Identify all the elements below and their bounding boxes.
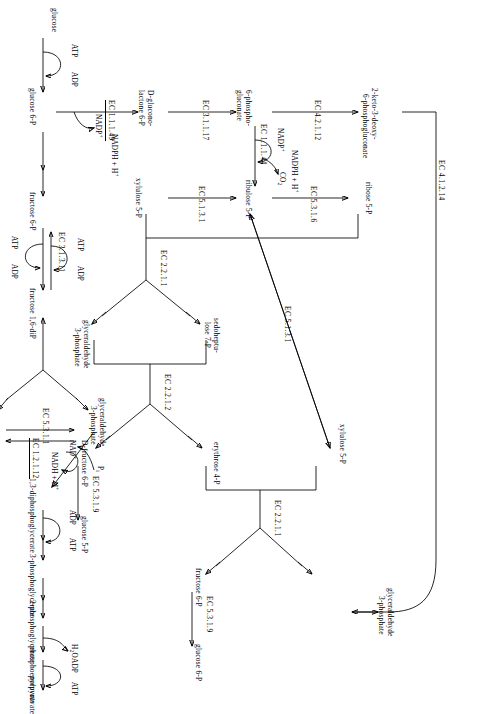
cofactor-atp-pfk: ATP (10, 236, 18, 249)
metabolite-gap-right-line2: 3-phosphate (377, 596, 385, 635)
cofactor-atp-hexokinase: ATP (70, 44, 78, 57)
metabolite-d-fructose-6p: D-fructose 6-P (80, 440, 88, 487)
ec-triosephosphate-isomerase: EC 5.3.1.1 (41, 408, 50, 445)
ec-transketolase-1: EC 2.2.1.1 (159, 250, 168, 287)
metabolite-fructose-16dip: fructose 1,6-diP (28, 288, 36, 339)
metabolite-bpg: 1,3-diphosphoglycerate (28, 478, 36, 553)
cofactor-adp-fbpase: ADP (76, 266, 84, 281)
metabolite-xylulose-5p-right: xylulose 5-P (338, 424, 346, 464)
ec-ribulose-5p-epimerase: EC 5.1.3.1 (197, 186, 206, 223)
metabolite-fructose-6p: fructose 6-P (28, 192, 36, 231)
metabolite-sedoheptulose-line2: lose 7-P (203, 322, 211, 348)
ec-6pg-dehydrogenase: EC 1.1.1.44 (259, 124, 268, 165)
cofactor-adp-hexokinase: ADP (70, 72, 78, 87)
metabolite-gap-right-line1: glyceraldehyde (386, 588, 394, 637)
ec-g6p-dehydrogenase: EC 1.1.1.49 (105, 100, 116, 141)
metabolite-gap-ppp-line2: 3-phosphate (73, 328, 81, 367)
cofactor-nadph-6pgdh: NADPH + H+ (290, 150, 300, 193)
metabolite-6-phosphogluconate-line2: gluconate (235, 90, 243, 121)
metabolite-ribulose-5p: ribulose 5-P (244, 180, 252, 219)
ec-fructose-bisphosphatase: EC 3.1.3.11 (57, 232, 66, 273)
ec-gluconolactonase: EC 3.1.1.17 (201, 100, 210, 141)
ec-transaldolase: EC 2.2.1.2 (163, 374, 172, 411)
ec-transketolase-2: EC 2.2.1.1 (273, 500, 282, 537)
ec-isomerase-a: EC 5.3.1.9 (91, 476, 100, 513)
metabolite-fructose-6p-right: fructose 6-P (194, 568, 202, 607)
cofactor-adp-pgk: ADP (68, 510, 76, 525)
cofactor-co2: CO2 (277, 172, 286, 185)
metabolite-erythrose-4p: erythrose 4-P (212, 442, 220, 485)
metabolite-glucose: glucose (50, 8, 58, 32)
cofactor-nadp-g6pdh: NADP+ (94, 114, 104, 138)
cofactor-nadp-6pgdh: NADP+ (276, 128, 286, 152)
cofactor-pi: Pi (95, 466, 104, 472)
metabolite-xylulose-5p-left: xylulose 5-P (134, 178, 142, 218)
cofactor-atp-pk: ATP (70, 682, 78, 695)
metabolite-sedoheptulose-line1: sedoheptu- (212, 318, 220, 353)
metabolite-glucose-6p: glucose 6-P (28, 88, 36, 125)
cofactor-nad-gapdh: NAD+ (68, 440, 78, 459)
metabolite-pyruvate: pyruvate (28, 676, 36, 704)
cofactor-h2o-enolase: H2O (69, 644, 78, 658)
metabolite-glucose-5p: glucose 5-P (80, 516, 88, 553)
ec-gapdh: EC 1.2.1.12 (29, 438, 40, 479)
metabolite-glucose-6p-right: glucose 6-P (194, 644, 202, 681)
cofactor-atp-fbpase: ATP (76, 238, 84, 251)
metabolite-6-phosphogluconate-line1: 6-phospho- (244, 90, 252, 126)
ec-ribose-5p-isomerase: EC 5.3.1.6 (309, 186, 318, 223)
ec-kdpg-aldolase: EC 4.1.2.14 (437, 160, 446, 201)
ec-epimerase-diagonal: EC 5.1.3.1 (283, 306, 292, 343)
cofactor-atp-pgk: ATP (68, 538, 76, 551)
metabolite-gap-line1: glyceraldehyde (98, 398, 106, 447)
cofactor-nadh-gapdh: NADH + H+ (50, 452, 60, 490)
metabolite-gluconolactone-line1: D-glucono- (146, 90, 154, 127)
ec-isomerase-b: EC 5.3.1.9 (205, 596, 214, 633)
metabolite-gluconolactone-line2: lactone 6-P (137, 90, 145, 126)
metabolite-kdpg-line1: 2-keto-3-deoxy- (370, 88, 378, 140)
cofactor-adp-pk: ADP (70, 658, 78, 673)
ec-phosphogluconate-dehydratase: EC 4.2.1.12 (313, 100, 322, 141)
metabolite-gap-ppp-line1: glyceraldehyde (82, 320, 90, 369)
cofactor-adp-pfk: ADP (10, 264, 18, 279)
metabolite-kdpg-line2: 6-phosphogluconate (361, 94, 369, 158)
metabolite-ribose-5p: ribose 5-P (364, 182, 372, 215)
metabolite-gap-line2: 3-phosphate (89, 406, 97, 445)
